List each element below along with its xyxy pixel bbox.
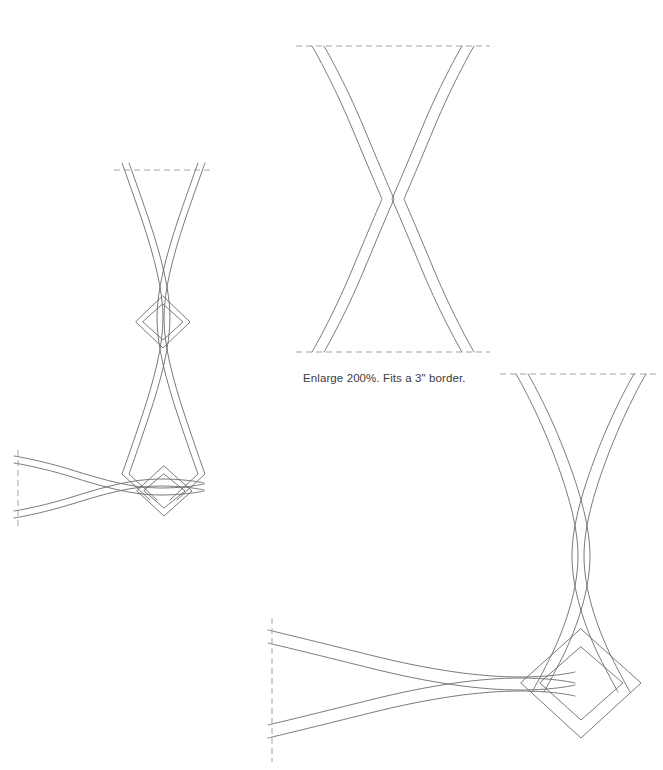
motif-left-straight-repeat	[14, 163, 213, 528]
border-pattern-drawing	[0, 0, 663, 770]
ribbon-a	[312, 46, 394, 352]
ribbon-b	[392, 46, 474, 352]
ribbon-b	[157, 163, 205, 500]
pattern-caption: Enlarge 200%. Fits a 3" border.	[303, 371, 466, 385]
ribbon-a-vertical	[516, 374, 590, 692]
ribbon-b-vertical	[572, 374, 646, 692]
motif-center-straight-repeat	[296, 46, 490, 352]
motif-bottom-right-corner	[268, 374, 660, 762]
horizontal-lens	[268, 630, 575, 738]
corner-diamond	[521, 629, 641, 738]
horizontal-lens	[14, 456, 204, 518]
pattern-sheet: Enlarge 200%. Fits a 3" border.	[0, 0, 663, 770]
corner-diamond	[137, 466, 192, 516]
